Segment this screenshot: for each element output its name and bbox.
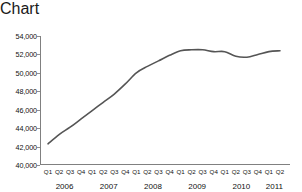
x-axis-year-labels: 200620072008200920102011 [40,182,290,192]
line-chart: 54,00052,00050,00048,00046,00044,00042,0… [0,18,302,192]
x-quarter-label: Q4 [121,168,129,175]
x-quarter-label: Q4 [210,168,218,175]
x-axis-quarter-labels: Q1Q2Q3Q4Q1Q2Q3Q4Q1Q2Q3Q4Q1Q2Q3Q4Q1Q2Q3Q4… [40,168,290,180]
y-tick-label: 46,000 [16,105,37,114]
x-year-label: 2011 [266,182,283,191]
x-quarter-label: Q2 [187,168,195,175]
x-quarter-label: Q4 [254,168,262,175]
x-quarter-label: Q1 [221,168,229,175]
x-quarter-label: Q2 [55,168,63,175]
y-tick-mark [37,165,40,166]
x-year-label: 2010 [232,182,250,191]
x-quarter-label: Q2 [276,168,284,175]
x-quarter-label: Q3 [243,168,251,175]
data-series-line [40,36,290,165]
x-quarter-label: Q1 [44,168,52,175]
x-quarter-label: Q4 [77,168,85,175]
x-quarter-label: Q1 [176,168,184,175]
y-tick-label: 50,000 [16,68,37,77]
x-quarter-label: Q2 [232,168,240,175]
x-quarter-label: Q2 [99,168,107,175]
y-tick-label: 42,000 [16,142,37,151]
x-quarter-label: Q3 [110,168,118,175]
x-quarter-label: Q1 [88,168,96,175]
x-quarter-label: Q1 [265,168,273,175]
x-quarter-label: Q3 [66,168,74,175]
y-tick-label: 44,000 [16,124,37,133]
series-path [48,50,280,144]
x-quarter-label: Q2 [143,168,151,175]
x-year-label: 2006 [56,182,74,191]
x-quarter-label: Q3 [199,168,207,175]
y-tick-label: 54,000 [16,32,37,41]
y-tick-label: 40,000 [16,161,37,170]
x-quarter-label: Q3 [154,168,162,175]
y-tick-label: 52,000 [16,50,37,59]
x-year-label: 2009 [188,182,206,191]
x-year-label: 2008 [144,182,162,191]
x-year-label: 2007 [100,182,118,191]
y-tick-label: 48,000 [16,87,37,96]
y-axis-tick-labels: 54,00052,00050,00048,00046,00044,00042,0… [0,18,40,192]
plot-area [40,36,290,165]
x-quarter-label: Q1 [132,168,140,175]
x-quarter-label: Q4 [165,168,173,175]
